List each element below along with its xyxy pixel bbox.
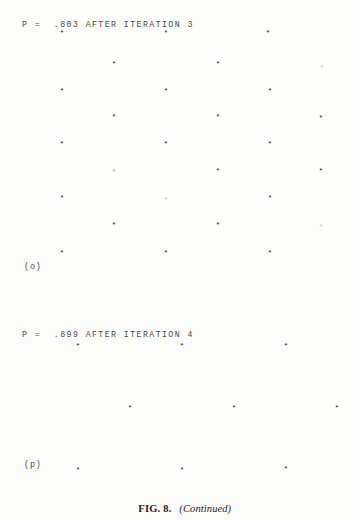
plot-marker: * xyxy=(333,404,341,412)
plot-marker: * xyxy=(317,223,325,231)
plot-marker: * xyxy=(110,221,118,229)
plot-marker: * xyxy=(264,29,272,37)
plot-marker: * xyxy=(110,168,118,176)
plot-marker: * xyxy=(162,196,170,204)
plot-marker: * xyxy=(282,342,290,350)
plot-marker: * xyxy=(317,114,325,122)
figure-panel-p: P = .899 AFTER ITERATION 4 ********* (p) xyxy=(0,312,359,487)
plot-marker: * xyxy=(178,342,186,350)
plot-marker: * xyxy=(58,29,66,37)
plot-marker: * xyxy=(214,167,222,175)
plot-marker: * xyxy=(58,87,66,95)
plot-marker: * xyxy=(58,140,66,148)
plot-marker: * xyxy=(266,140,274,148)
plot-marker: * xyxy=(162,29,170,37)
panel-o-label: (o) xyxy=(24,262,42,272)
panel-p-label: (p) xyxy=(24,460,42,470)
plot-marker: * xyxy=(58,194,66,202)
figure-number: FIG. 8. xyxy=(138,503,171,514)
plot-marker: * xyxy=(266,249,274,257)
plot-marker: * xyxy=(214,113,222,121)
plot-marker: * xyxy=(162,140,170,148)
plot-marker: * xyxy=(266,87,274,95)
plot-marker: * xyxy=(317,167,325,175)
plot-marker: * xyxy=(126,404,134,412)
plot-marker: * xyxy=(110,60,118,68)
figure-caption: FIG. 8. (Continued) xyxy=(0,492,359,520)
plot-marker: * xyxy=(58,249,66,257)
plot-marker: * xyxy=(178,466,186,474)
plot-marker: * xyxy=(266,194,274,202)
scanned-page: P = .803 AFTER ITERATION 3 *************… xyxy=(0,0,359,520)
panel-p-scatter-plot: ********* xyxy=(0,312,359,487)
plot-marker: * xyxy=(162,249,170,257)
plot-marker: * xyxy=(214,60,222,68)
plot-marker: * xyxy=(230,404,238,412)
plot-marker: * xyxy=(110,113,118,121)
plot-marker: * xyxy=(318,64,326,72)
plot-marker: * xyxy=(282,465,290,473)
panel-o-scatter-plot: *************************** xyxy=(0,0,359,290)
plot-marker: * xyxy=(214,221,222,229)
figure-continued-note: (Continued) xyxy=(179,503,231,514)
plot-marker: * xyxy=(162,87,170,95)
figure-panel-o: P = .803 AFTER ITERATION 3 *************… xyxy=(0,0,359,290)
plot-marker: * xyxy=(74,466,82,474)
plot-marker: * xyxy=(74,342,82,350)
